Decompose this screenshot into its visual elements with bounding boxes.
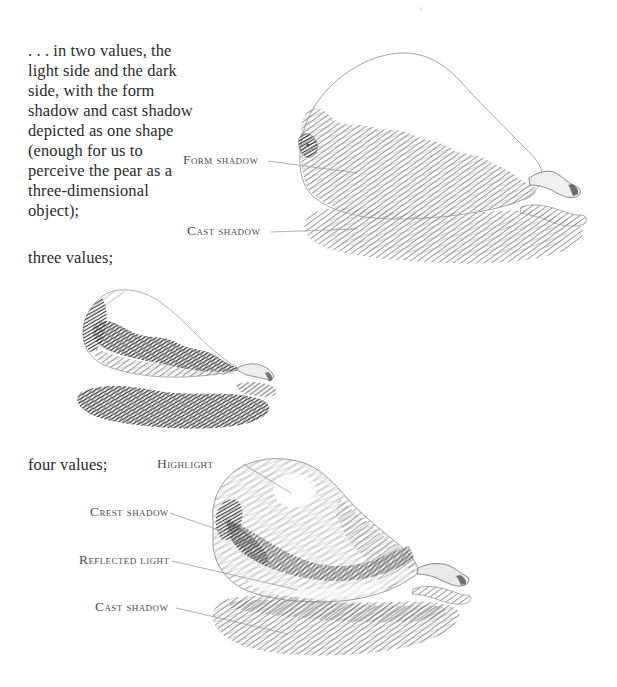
label-form-shadow: Form shadow <box>183 153 258 167</box>
intro-line: perceive the pear as a <box>28 161 193 181</box>
intro-line: depicted as one shape <box>28 121 193 141</box>
intro-line: shadow and cast shadow <box>28 101 193 121</box>
label-crest-shadow: Crest shadow <box>90 505 169 519</box>
label-highlight: Highlight <box>157 457 213 471</box>
figure-three-values-drawing <box>77 290 276 429</box>
label-cast-shadow-figure1: Cast shadow <box>187 224 260 238</box>
paper-speck <box>419 7 423 11</box>
label-cast-shadow-figure3: Cast shadow <box>95 600 168 614</box>
intro-line: (enough for us to <box>28 141 193 161</box>
figure-four-values-drawing <box>213 459 471 656</box>
caption-four-values: four values; <box>28 455 108 475</box>
cast-shadow-crosshatch <box>77 386 269 429</box>
caption-three-values: three values; <box>28 248 113 268</box>
book-page: . . . in two values, the light side and … <box>0 0 617 687</box>
stem-shadow <box>412 586 471 604</box>
intro-paragraph: . . . in two values, the light side and … <box>28 41 193 221</box>
intro-line: . . . in two values, the <box>28 41 193 61</box>
blossom-dot <box>306 143 309 146</box>
intro-line: side, with the form <box>28 81 193 101</box>
label-reflected-light: Reflected light <box>79 553 169 567</box>
intro-line: object); <box>28 201 193 221</box>
figure-two-values-drawing <box>299 53 587 263</box>
cast-shadow-tail <box>236 382 277 397</box>
intro-line: light side and the dark <box>28 61 193 81</box>
intro-line: three-dimensional <box>28 181 193 201</box>
